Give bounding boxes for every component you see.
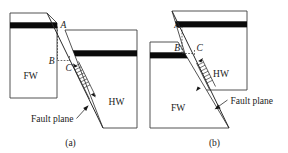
- fault-diagram-svg: A B C FW HW Fault plane (a): [0, 0, 288, 153]
- panel-b-label-fault-plane: Fault plane: [231, 96, 273, 106]
- panel-a-label-fault-plane: Fault plane: [31, 114, 73, 124]
- panel-a-hangingwall-block: [65, 30, 137, 128]
- panel-b-caption: (b): [209, 138, 220, 149]
- panel-a-caption: (a): [65, 138, 76, 149]
- panel-a-label-a: A: [60, 20, 67, 30]
- panel-a-label-b: B: [49, 56, 55, 66]
- panel-b-label-b: B: [174, 43, 180, 53]
- panel-a-label-hangingwall: HW: [109, 97, 125, 107]
- panel-a: A B C FW HW Fault plane (a): [9, 13, 139, 149]
- panel-b-hangingwall-marker-bed: [171, 22, 249, 28]
- panel-a-hangingwall-marker-bed: [64, 51, 139, 57]
- panel-b-label-c: C: [197, 43, 204, 53]
- panel-a-label-footwall: FW: [23, 71, 37, 81]
- panel-b-label-hangingwall: HW: [213, 69, 229, 79]
- panel-b-label-footwall: FW: [171, 103, 185, 113]
- panel-a-hangingwall-bed-group: [64, 51, 139, 57]
- panel-b: A B C FW HW Fault plane (b): [149, 11, 273, 149]
- panel-a-label-c: C: [66, 63, 73, 73]
- fault-block-figure: A B C FW HW Fault plane (a): [0, 0, 288, 153]
- panel-b-label-a: A: [173, 20, 180, 30]
- panel-b-hangingwall-bed-group: [171, 22, 249, 28]
